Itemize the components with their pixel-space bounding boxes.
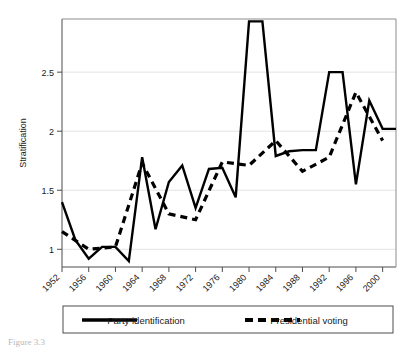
- x-tick-label: 1988: [281, 272, 302, 293]
- x-tick-label: 2000: [361, 272, 382, 293]
- stratification-line-chart: 11.522.5 1952195619601964196819721976198…: [0, 0, 415, 348]
- legend-label-presidential-voting: Presidential voting: [270, 315, 348, 326]
- x-tick-label: 1952: [40, 272, 61, 293]
- y-axis-ticks: 11.522.5: [41, 68, 62, 255]
- x-tick-label: 1996: [334, 272, 355, 293]
- y-axis-title: Stratification: [18, 118, 28, 168]
- figure-caption: Figure 3.3: [8, 337, 45, 347]
- x-tick-label: 1992: [307, 272, 328, 293]
- legend-label-party-identification: Party identification: [107, 315, 185, 326]
- plot-area-background: [62, 19, 396, 267]
- x-tick-label: 1968: [147, 272, 168, 293]
- x-tick-label: 1984: [254, 272, 275, 293]
- y-tick-label: 1.5: [41, 186, 54, 196]
- y-tick-label: 2.5: [41, 68, 54, 78]
- figure-container: 11.522.5 1952195619601964196819721976198…: [0, 0, 415, 348]
- x-tick-label: 1976: [200, 272, 221, 293]
- x-tick-label: 1956: [67, 272, 88, 293]
- x-tick-label: 1960: [94, 272, 115, 293]
- y-tick-label: 1: [49, 245, 54, 255]
- x-axis-ticks: 1952195619601964196819721976198019841988…: [40, 267, 382, 294]
- x-tick-label: 1964: [120, 272, 141, 293]
- x-tick-label: 1972: [174, 272, 195, 293]
- y-tick-label: 2: [49, 127, 54, 137]
- x-tick-label: 1980: [227, 272, 248, 293]
